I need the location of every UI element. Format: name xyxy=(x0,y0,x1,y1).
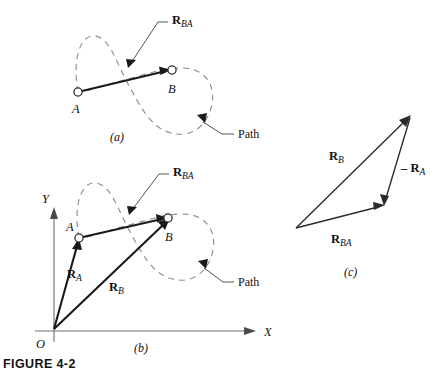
vector-neg-ra-label-c-base: – R xyxy=(400,161,420,175)
point-a-marker-b xyxy=(75,234,83,242)
vector-rba-line-a xyxy=(82,71,166,91)
figure-container: A B RBA Path (a) X Y O xyxy=(0,0,448,380)
figure-caption: FIGURE 4-2 xyxy=(3,357,76,371)
y-axis-label: Y xyxy=(42,192,51,206)
panel-a: A B RBA Path (a) xyxy=(71,13,259,144)
point-b-marker-a xyxy=(168,66,176,74)
vector-rb-label-c: RB xyxy=(329,149,344,165)
vector-ra-line-b xyxy=(54,246,77,329)
path-label-b: Path xyxy=(238,275,259,289)
origin-label: O xyxy=(36,337,45,351)
rba-leader-a xyxy=(131,22,168,63)
figure-4-2-svg: A B RBA Path (a) X Y O xyxy=(0,0,448,380)
vector-rba-label-a: RBA xyxy=(172,13,193,29)
panel-c-label: (c) xyxy=(344,265,357,279)
panel-c: RB – RA RBA (c) xyxy=(296,115,425,279)
vector-neg-ra-label-c-sub: A xyxy=(418,167,425,177)
vector-rb-label-b: RB xyxy=(109,280,124,296)
vector-rb-label-c-sub: B xyxy=(338,155,344,165)
path-leader-a xyxy=(203,122,234,134)
panel-a-label: (a) xyxy=(110,130,124,144)
x-axis-arrowhead xyxy=(244,327,256,335)
y-axis-arrowhead xyxy=(50,207,58,219)
path-label-a: Path xyxy=(238,127,259,141)
vector-neg-ra-label-c: – RA xyxy=(400,161,425,177)
vector-rba-label-a-sub: BA xyxy=(181,19,193,29)
vector-rb-line-c xyxy=(296,121,405,228)
vector-ra-label-b-sub: A xyxy=(75,273,82,283)
vector-rba-label-c-sub: BA xyxy=(340,238,352,248)
point-b-label-b: B xyxy=(165,230,173,244)
point-b-label-a: B xyxy=(168,82,176,96)
vector-ra-label-b: RA xyxy=(67,267,82,283)
vector-rba-line-c xyxy=(296,207,378,228)
rba-leader-b xyxy=(132,174,169,210)
path-leader-arrowhead-b xyxy=(198,259,208,269)
vector-rba-line-b xyxy=(83,219,162,237)
x-axis-label: X xyxy=(263,325,273,339)
rba-leader-arrowhead-b xyxy=(127,206,137,215)
point-a-label-b: A xyxy=(65,220,74,234)
point-b-marker-b xyxy=(164,214,172,222)
vector-rb-label-b-sub: B xyxy=(118,286,124,296)
path-leader-arrowhead-a xyxy=(197,113,207,123)
rba-leader-arrowhead-a xyxy=(126,59,136,68)
vector-rba-label-b: RBA xyxy=(173,165,194,181)
panel-b: X Y O A B RA xyxy=(35,165,273,355)
path-curve-b xyxy=(77,183,214,280)
point-a-label-a: A xyxy=(71,102,80,116)
vector-neg-ra-line-c xyxy=(386,118,410,198)
vector-rba-label-c: RBA xyxy=(331,232,352,248)
point-a-marker-a xyxy=(74,88,82,96)
path-curve-a xyxy=(76,36,213,134)
path-leader-b xyxy=(204,268,234,282)
panel-b-label: (b) xyxy=(134,341,148,355)
vector-rba-label-b-sub: BA xyxy=(182,171,194,181)
